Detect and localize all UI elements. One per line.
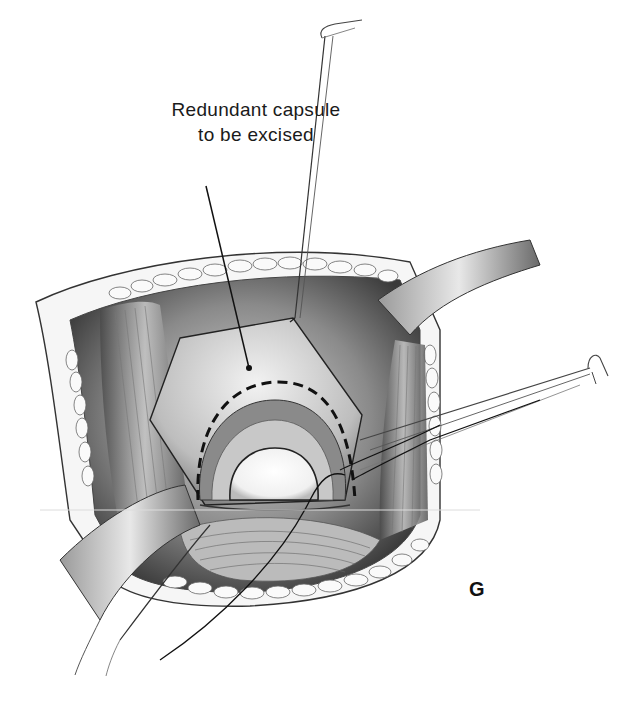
callout-label: Redundant capsule to be excised: [156, 97, 356, 147]
callout-line-2: to be excised: [156, 122, 356, 147]
upper-right-retractor-blade: [378, 240, 540, 335]
panel-letter: G: [469, 578, 485, 601]
callout-line-1: Redundant capsule: [156, 97, 356, 122]
surgical-illustration: Redundant capsule to be excised G: [0, 0, 638, 704]
